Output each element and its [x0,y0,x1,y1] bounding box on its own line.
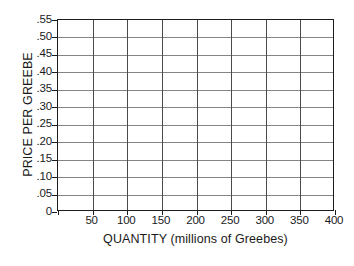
gridline-horizontal [58,177,333,178]
y-axis-tick [52,90,57,91]
y-axis-tick [52,20,57,21]
y-axis-tick [52,177,57,178]
gridline-vertical [127,20,128,210]
gridline-vertical [197,20,198,210]
gridline-horizontal [58,37,333,38]
gridline-horizontal [58,125,333,126]
y-axis-tick [52,160,57,161]
y-axis-tick [52,212,57,213]
gridline-horizontal [58,72,333,73]
y-axis-tick [52,195,57,196]
y-axis-tick [52,55,57,56]
gridline-vertical [300,20,301,210]
y-axis-title: PRICE PER GREEBE [22,25,35,205]
gridline-vertical [231,20,232,210]
y-axis-tick [52,107,57,108]
plot-area [57,19,334,211]
x-axis-tick-label: 400 [311,215,354,227]
y-axis-tick-label: 0 [12,206,52,218]
gridline-vertical [162,20,163,210]
gridline-horizontal [58,90,333,91]
y-axis-tick [52,37,57,38]
clipped-top-text [27,0,147,2]
y-axis-tick [52,125,57,126]
gridline-vertical [266,20,267,210]
x-axis-title: QUANTITY (millions of Greebes) [57,233,334,246]
y-axis-tick [52,72,57,73]
gridline-horizontal [58,195,333,196]
y-axis-tick-label: .55 [12,14,52,26]
gridline-horizontal [58,160,333,161]
gridline-vertical [93,20,94,210]
chart-figure: 0.05.10.15.20.25.30.35.40.45.50.55 50100… [0,0,354,266]
gridline-horizontal [58,55,333,56]
gridline-horizontal [58,107,333,108]
x-axis-tick-labels: 50100150200250300350400 [57,215,334,229]
gridline-horizontal [58,142,333,143]
y-axis-tick [52,142,57,143]
